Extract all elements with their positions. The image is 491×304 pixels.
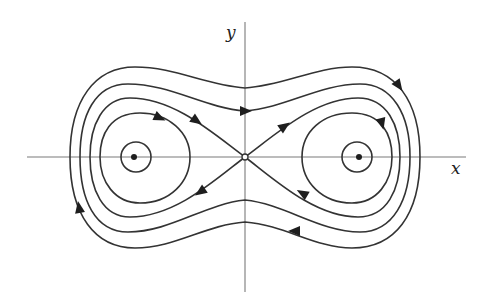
right-center-point — [356, 154, 362, 160]
arrow-orbit2-top-center-icon — [240, 106, 252, 116]
arrow-outer-left-icon — [73, 200, 85, 214]
left-center-point — [131, 154, 137, 160]
y-axis-label: y — [226, 24, 236, 41]
x-axis-label: x — [451, 160, 461, 177]
arrow-right-inner-orbit-icon — [376, 117, 389, 131]
right-inner-orbit — [302, 113, 392, 203]
phase-portrait-diagram — [0, 0, 491, 304]
saddle-point-origin — [242, 154, 248, 160]
left-inner-orbit — [100, 113, 190, 203]
